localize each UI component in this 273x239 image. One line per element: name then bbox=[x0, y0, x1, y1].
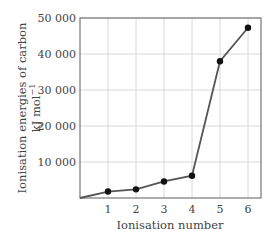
data-point-marker bbox=[245, 25, 251, 31]
y-tick-label: 50 000 bbox=[38, 12, 77, 25]
y-tick-label: 20 000 bbox=[38, 120, 77, 133]
y-tick-label: 40 000 bbox=[38, 48, 77, 61]
x-tick-label: 4 bbox=[189, 203, 196, 216]
x-axis-ticks: 123456 bbox=[105, 203, 252, 216]
data-point-marker bbox=[133, 186, 139, 192]
y-axis-unit-superscript: −1 bbox=[28, 84, 37, 96]
x-tick-label: 2 bbox=[133, 203, 140, 216]
data-point-marker bbox=[105, 188, 111, 194]
x-tick-label: 5 bbox=[217, 203, 224, 216]
data-point-marker bbox=[189, 172, 195, 178]
x-tick-label: 3 bbox=[161, 203, 168, 216]
y-axis-label: Ionisation energies of carbon bbox=[15, 22, 29, 193]
y-tick-label: 10 000 bbox=[38, 156, 77, 169]
ionisation-energy-chart: 10 00020 00030 00040 00050 000 123456 Io… bbox=[0, 0, 273, 239]
x-tick-label: 1 bbox=[105, 203, 112, 216]
y-tick-label: 30 000 bbox=[38, 84, 77, 97]
data-point-marker bbox=[161, 178, 167, 184]
y-axis-unit-text: kJ mol bbox=[29, 95, 43, 132]
y-axis-ticks: 10 00020 00030 00040 00050 000 bbox=[38, 12, 77, 169]
x-axis-label: Ionisation number bbox=[117, 218, 224, 232]
x-tick-label: 6 bbox=[245, 203, 252, 216]
data-point-marker bbox=[217, 58, 223, 64]
